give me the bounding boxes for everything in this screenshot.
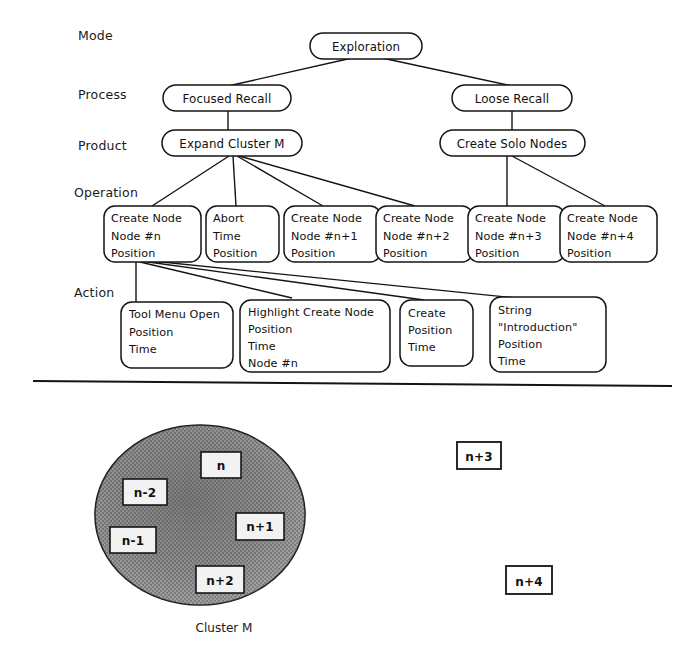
act-string-line-2: "Introduction" bbox=[498, 321, 577, 334]
cluster-node-n[interactable]: n bbox=[201, 452, 241, 478]
diagram-canvas: Mode Process Product Operation Action bbox=[0, 0, 687, 657]
node-op-create-node-n1[interactable]: Create Node Node #n+1 Position bbox=[284, 206, 381, 262]
node-op-create-node-n2[interactable]: Create Node Node #n+2 Position bbox=[376, 206, 473, 262]
links-process-to-product bbox=[228, 110, 512, 131]
cluster-node-n-minus-1-label: n-1 bbox=[122, 534, 144, 548]
act-highlight-line-3: Time bbox=[247, 340, 276, 353]
node-op-create-node-n[interactable]: Create Node Node #n Position bbox=[104, 206, 201, 262]
cluster-node-n-plus-2-label: n+2 bbox=[206, 574, 234, 588]
row-label-product: Product bbox=[78, 138, 127, 153]
row-label-action: Action bbox=[74, 285, 114, 300]
row-label-process: Process bbox=[78, 87, 127, 102]
act-string-line-1: String bbox=[498, 304, 532, 317]
cluster-node-n-minus-2[interactable]: n-2 bbox=[123, 479, 167, 505]
cluster-node-n-minus-2-label: n-2 bbox=[134, 486, 156, 500]
node-loose-recall[interactable]: Loose Recall bbox=[452, 85, 572, 111]
node-expand-cluster-m-label: Expand Cluster M bbox=[179, 137, 284, 151]
act-tool-menu-open-line-1: Tool Menu Open bbox=[128, 308, 220, 321]
node-expand-cluster-m[interactable]: Expand Cluster M bbox=[162, 130, 302, 156]
node-act-tool-menu-open[interactable]: Tool Menu Open Position Time bbox=[121, 302, 233, 368]
section-divider bbox=[33, 381, 672, 386]
diagram-svg: Mode Process Product Operation Action bbox=[0, 0, 687, 657]
node-exploration-label: Exploration bbox=[332, 40, 400, 54]
solo-node-n-plus-3[interactable]: n+3 bbox=[457, 442, 501, 469]
node-act-create[interactable]: Create Position Time bbox=[400, 300, 473, 366]
node-create-solo-nodes-label: Create Solo Nodes bbox=[457, 137, 568, 151]
act-string-line-4: Time bbox=[497, 355, 526, 368]
solo-node-n-plus-3-label: n+3 bbox=[465, 450, 493, 464]
op-create-node-n1-line-3: Position bbox=[291, 247, 335, 260]
node-act-string-introduction[interactable]: String "Introduction" Position Time bbox=[490, 297, 606, 372]
node-exploration[interactable]: Exploration bbox=[310, 33, 422, 59]
solo-node-n-plus-4[interactable]: n+4 bbox=[506, 566, 552, 594]
op-create-node-n-line-2: Node #n bbox=[111, 230, 161, 243]
act-string-line-3: Position bbox=[498, 338, 542, 351]
op-create-node-n4-line-2: Node #n+4 bbox=[567, 230, 634, 243]
node-op-abort[interactable]: Abort Time Position bbox=[206, 206, 279, 262]
node-act-highlight-create-node[interactable]: Highlight Create Node Position Time Node… bbox=[240, 300, 390, 372]
op-create-node-n2-line-2: Node #n+2 bbox=[383, 230, 450, 243]
cluster-node-n-plus-2[interactable]: n+2 bbox=[196, 566, 244, 593]
op-create-node-n3-line-2: Node #n+3 bbox=[475, 230, 542, 243]
act-highlight-line-4: Node #n bbox=[248, 357, 298, 370]
act-create-line-3: Time bbox=[407, 341, 436, 354]
act-tool-menu-open-line-2: Position bbox=[129, 326, 173, 339]
op-abort-line-1: Abort bbox=[213, 212, 245, 225]
act-create-line-1: Create bbox=[408, 307, 446, 320]
op-create-node-n4-line-1: Create Node bbox=[567, 212, 638, 225]
links-mode-to-process bbox=[228, 58, 512, 86]
act-tool-menu-open-line-3: Time bbox=[128, 343, 157, 356]
op-create-node-n3-line-3: Position bbox=[475, 247, 519, 260]
op-create-node-n1-line-2: Node #n+1 bbox=[291, 230, 358, 243]
links-product-to-operation-right bbox=[507, 156, 605, 206]
row-label-operation: Operation bbox=[74, 185, 138, 200]
op-create-node-n3-line-1: Create Node bbox=[475, 212, 546, 225]
solo-node-n-plus-4-label: n+4 bbox=[515, 575, 543, 589]
node-create-solo-nodes[interactable]: Create Solo Nodes bbox=[440, 130, 585, 156]
act-highlight-line-2: Position bbox=[248, 323, 292, 336]
node-op-create-node-n4[interactable]: Create Node Node #n+4 Position bbox=[560, 206, 657, 262]
op-abort-line-2: Time bbox=[212, 230, 241, 243]
act-highlight-line-1: Highlight Create Node bbox=[248, 306, 374, 319]
cluster-m-caption: Cluster M bbox=[196, 621, 253, 635]
links-product-to-operation-left bbox=[152, 156, 415, 206]
node-op-create-node-n3[interactable]: Create Node Node #n+3 Position bbox=[468, 206, 565, 262]
node-focused-recall-label: Focused Recall bbox=[183, 92, 272, 106]
act-create-line-2: Position bbox=[408, 324, 452, 337]
cluster-node-n-minus-1[interactable]: n-1 bbox=[110, 527, 156, 553]
op-abort-line-3: Position bbox=[213, 247, 257, 260]
op-create-node-n2-line-1: Create Node bbox=[383, 212, 454, 225]
cluster-node-n-plus-1[interactable]: n+1 bbox=[236, 513, 284, 540]
node-focused-recall[interactable]: Focused Recall bbox=[163, 85, 291, 111]
node-loose-recall-label: Loose Recall bbox=[475, 92, 549, 106]
cluster-node-n-plus-1-label: n+1 bbox=[246, 520, 274, 534]
op-create-node-n1-line-1: Create Node bbox=[291, 212, 362, 225]
op-create-node-n4-line-3: Position bbox=[567, 247, 611, 260]
op-create-node-n2-line-3: Position bbox=[383, 247, 427, 260]
cluster-m-group: n n-2 n-1 n+1 n+2 Cluster M bbox=[95, 425, 305, 635]
cluster-node-n-label: n bbox=[217, 459, 226, 473]
op-create-node-n-line-1: Create Node bbox=[111, 212, 182, 225]
op-create-node-n-line-3: Position bbox=[111, 247, 155, 260]
links-operation-to-action bbox=[136, 260, 516, 302]
row-label-mode: Mode bbox=[78, 28, 113, 43]
